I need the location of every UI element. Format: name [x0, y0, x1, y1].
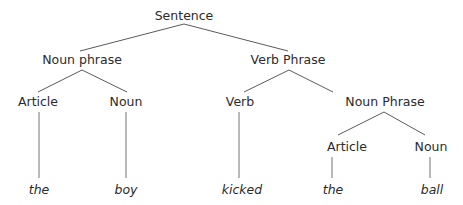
node-noun: Noun — [110, 94, 143, 109]
node-article-2: Article — [327, 139, 367, 154]
edge-noun-phrase2-noun — [384, 112, 425, 135]
edge-noun-phrase2-article — [338, 112, 384, 135]
edge-verb-phrase-verb — [244, 70, 289, 92]
syntax-tree-diagram: Sentence Noun phrase Verb Phrase Article… — [0, 0, 463, 205]
edge-noun-phrase-noun — [82, 70, 127, 92]
leaf-ball: ball — [421, 182, 444, 197]
node-sentence: Sentence — [155, 8, 214, 23]
node-article: Article — [18, 94, 58, 109]
edge-sentence-verb-phrase — [184, 24, 288, 51]
edge-sentence-noun-phrase — [80, 24, 184, 51]
leaf-the-2: the — [323, 182, 344, 197]
leaf-boy: boy — [115, 182, 139, 197]
leaf-kicked: kicked — [222, 182, 263, 197]
node-verb: Verb — [226, 94, 254, 109]
node-noun-phrase: Noun phrase — [42, 52, 122, 67]
leaf-the: the — [29, 182, 50, 197]
node-verb-phrase: Verb Phrase — [251, 52, 326, 67]
node-noun-2: Noun — [415, 139, 448, 154]
edge-noun-phrase-article — [38, 70, 82, 92]
edge-verb-phrase-noun-phrase — [289, 70, 333, 92]
node-noun-phrase-2: Noun Phrase — [345, 94, 425, 109]
